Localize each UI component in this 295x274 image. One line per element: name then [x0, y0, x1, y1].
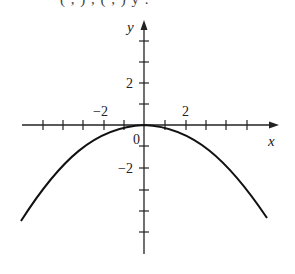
y-tick-label-pos2: 2: [126, 76, 133, 91]
y-axis-arrow-icon: [141, 20, 148, 30]
x-tick-label-pos2: 2: [182, 104, 189, 119]
graph: y x 0 −2 2 2 −2: [0, 0, 295, 274]
x-axis-label: x: [267, 133, 275, 149]
x-axis-arrow-icon: [269, 122, 279, 129]
origin-label: 0: [133, 132, 140, 147]
y-axis-label: y: [125, 19, 134, 35]
y-tick-label-neg2: −2: [118, 161, 133, 176]
x-tick-label-neg2: −2: [93, 104, 108, 119]
